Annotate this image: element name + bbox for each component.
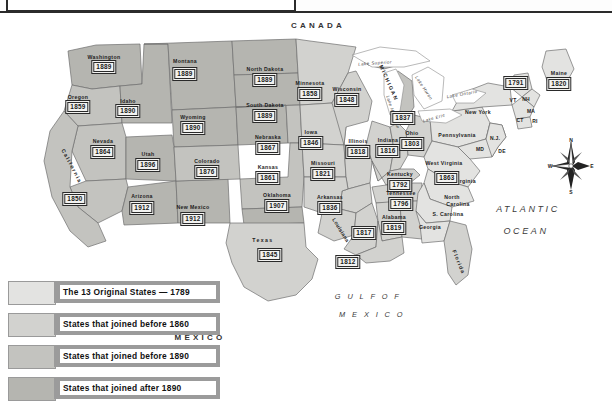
state-label-idaho: Idaho — [120, 98, 136, 104]
state-label-ohio: Ohio — [405, 130, 418, 136]
statehood-date-nebraska: 1867 — [257, 143, 278, 153]
state-label-missouri: Missouri — [311, 160, 335, 166]
statehood-date-kansas: 1861 — [257, 173, 278, 183]
statehood-date-new-mexico: 1912 — [182, 214, 203, 224]
state-label-arkansas: Arkansas — [317, 194, 343, 200]
statehood-date-oregon: 1859 — [67, 102, 88, 112]
label-de: DE — [498, 148, 505, 154]
label-gulf-of: G U L F O F — [335, 292, 401, 301]
statehood-date-texas: 1845 — [259, 250, 280, 260]
statehood-date-ohio: 1803 — [401, 139, 422, 149]
statehood-date-maine: 1820 — [548, 79, 569, 89]
statehood-date-iowa: 1846 — [300, 138, 321, 148]
compass-south: S — [569, 189, 572, 195]
legend-row: The 13 Original States — 1789 — [8, 281, 220, 303]
statehood-date-utah: 1896 — [137, 160, 158, 170]
legend-swatch — [8, 281, 56, 305]
state-label-wisconsin: Wisconsin — [332, 86, 361, 92]
label-gulf-mexico: M E X I C O — [339, 310, 405, 319]
legend-swatch — [8, 345, 56, 369]
statehood-date-arkansas: 1836 — [319, 203, 340, 213]
statehood-date-mississippi: 1817 — [353, 228, 374, 238]
label-pennsylvania: Pennsylvania — [438, 132, 475, 138]
label-north-carolina-1: North — [444, 194, 460, 200]
state-label-iowa: Iowa — [305, 129, 318, 135]
state-label-arizona: Arizona — [131, 193, 152, 199]
legend-label: The 13 Original States — 1789 — [60, 285, 216, 299]
state-label-minnesota: Minnesota — [296, 80, 325, 86]
state-label-nebraska: Nebraska — [255, 134, 281, 140]
statehood-date-north-dakota: 1889 — [254, 75, 275, 85]
state-label-west-virginia: West Virginia — [425, 160, 462, 166]
statehood-date-alabama: 1819 — [383, 223, 404, 233]
legend-label: States that joined before 1860 — [60, 317, 216, 331]
state-label-washington: Washington — [88, 54, 121, 60]
statehood-date-oklahoma: 1907 — [266, 201, 287, 211]
legend-row: States that joined after 1890 — [8, 377, 220, 399]
statehood-date-kentucky: 1792 — [389, 180, 410, 190]
state-label-new-mexico: New Mexico — [176, 204, 209, 210]
map-page: .land{stroke:#6e6e6e;stroke-width:.7;} .… — [0, 0, 612, 417]
state-label-illinois: Illinois — [348, 138, 367, 144]
us-statehood-map: .land{stroke:#6e6e6e;stroke-width:.7;} .… — [0, 11, 612, 417]
legend-row: States that joined before 1890 — [8, 345, 220, 367]
state-label-kansas: Kansas — [258, 164, 279, 170]
label-texas: Texas — [252, 237, 273, 243]
map-legend: The 13 Original States — 1789 States tha… — [8, 281, 220, 409]
statehood-date-idaho: 1890 — [117, 106, 138, 116]
statehood-date-missouri: 1821 — [312, 169, 333, 179]
state-label-maine: Maine — [551, 70, 567, 76]
state-label-tennessee: Tennessee — [386, 190, 416, 196]
state-label-oregon: Oregon — [68, 94, 89, 100]
statehood-date-indiana: 1816 — [377, 146, 398, 156]
statehood-date-colorado: 1876 — [196, 167, 217, 177]
statehood-date-louisiana: 1812 — [337, 257, 358, 267]
statehood-date-vermont: 1791 — [505, 78, 526, 88]
state-label-north-dakota: North Dakota — [247, 66, 284, 72]
state-label-nevada: Nevada — [93, 138, 114, 144]
legend-row: States that joined before 1860 — [8, 313, 220, 335]
label-new-york: New York — [465, 109, 491, 115]
statehood-date-montana: 1889 — [174, 69, 195, 79]
statehood-date-minnesota: 1858 — [299, 89, 320, 99]
label-georgia: Georgia — [419, 224, 441, 230]
compass-rose: N S W E — [548, 138, 594, 194]
statehood-date-arizona: 1912 — [131, 203, 152, 213]
statehood-date-west-virginia: 1863 — [436, 173, 457, 183]
label-south-carolina: S. Carolina — [433, 211, 464, 217]
statehood-date-wisconsin: 1848 — [336, 95, 357, 105]
statehood-date-tennessee: 1796 — [390, 199, 411, 209]
statehood-date-south-dakota: 1889 — [254, 111, 275, 121]
state-label-south-dakota: South Dakota — [246, 102, 284, 108]
legend-label: States that joined after 1890 — [60, 381, 216, 395]
label-ma: MA — [527, 108, 535, 114]
label-nh: NH — [522, 96, 530, 102]
statehood-date-nevada: 1864 — [92, 147, 113, 157]
state-label-montana: Montana — [173, 58, 197, 64]
state-label-kentucky: Kentucky — [387, 171, 413, 177]
state-label-alabama: Alabama — [382, 214, 406, 220]
label-vt: VT — [510, 97, 517, 103]
statehood-date-michigan: 1837 — [392, 113, 413, 123]
legend-label: States that joined before 1890 — [60, 349, 216, 363]
label-canada: CANADA — [291, 21, 345, 30]
state-label-indiana: Indiana — [378, 137, 399, 143]
statehood-date-wyoming: 1890 — [182, 123, 203, 133]
label-atlantic-ocean: OCEAN — [503, 226, 548, 236]
statehood-date-illinois: 1818 — [347, 147, 368, 157]
compass-east: E — [590, 163, 593, 169]
label-atlantic: ATLANTIC — [496, 204, 560, 214]
state-label-utah: Utah — [142, 151, 155, 157]
statehood-date-washington: 1889 — [93, 62, 114, 72]
state-label-oklahoma: Oklahoma — [263, 192, 291, 198]
legend-swatch — [8, 313, 56, 337]
compass-west: W — [548, 163, 553, 169]
state-label-colorado: Colorado — [194, 158, 220, 164]
statehood-date-california: 1850 — [64, 194, 85, 204]
label-md: MD — [476, 146, 484, 152]
state-label-wyoming: Wyoming — [180, 114, 206, 120]
label-north-carolina-2: Carolina — [446, 201, 470, 207]
compass-north: N — [569, 137, 573, 143]
legend-swatch — [8, 377, 56, 401]
label-ri: RI — [532, 118, 537, 124]
